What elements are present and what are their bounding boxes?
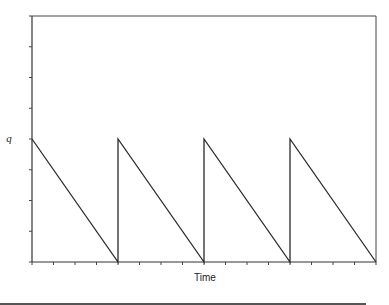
sawtooth-chart: q Time [0,0,389,305]
axis-ticks [29,16,376,265]
tick-labels: q [6,132,12,144]
series-line-inventory [32,139,376,262]
x-axis-label: Time [194,272,216,283]
y-tick-label-q: q [6,132,12,144]
series-group [32,139,376,262]
